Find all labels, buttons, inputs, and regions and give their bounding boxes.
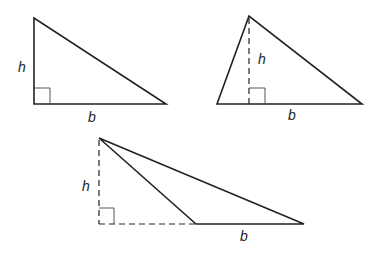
base-label: b [288,107,296,123]
height-label: h [258,51,266,67]
obtuse-triangle: h b [82,138,304,244]
height-label: h [82,178,90,194]
height-label: h [18,59,26,75]
right-triangle: h b [18,18,166,125]
right-angle-marker [249,88,265,104]
base-label: b [88,109,96,125]
acute-triangle: h b [217,16,362,123]
acute-triangle-shape [217,16,362,104]
right-angle-marker [34,88,50,104]
base-label: b [240,228,248,244]
right-angle-marker [99,208,114,224]
right-triangle-shape [34,18,166,104]
obtuse-triangle-shape [99,138,304,224]
triangle-diagram: h b h b h b [0,0,379,253]
